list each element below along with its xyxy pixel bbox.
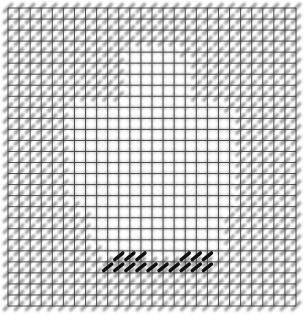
stitch-pattern-canvas (0, 0, 304, 316)
stitch-pattern-grid (0, 0, 304, 316)
